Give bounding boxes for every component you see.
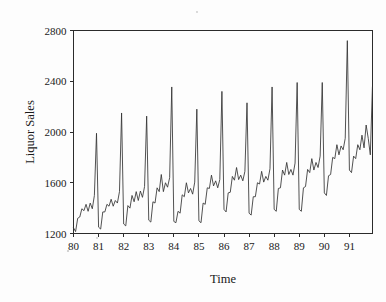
y-tick-label: 2400 bbox=[45, 75, 68, 87]
x-tick-label: 82 bbox=[118, 240, 129, 252]
x-tick-label: 80 bbox=[68, 240, 80, 252]
x-axis-ticks: 808182838485868788899091 bbox=[68, 234, 355, 252]
x-tick-label: 88 bbox=[269, 240, 281, 252]
scan-speck bbox=[196, 11, 198, 13]
x-tick-label: 85 bbox=[193, 240, 205, 252]
x-tick-label: 89 bbox=[294, 240, 306, 252]
liquor-sales-line-chart: 12001600200024002800 8081828384858687888… bbox=[0, 0, 386, 302]
x-tick-label: 83 bbox=[143, 240, 155, 252]
x-axis-title: Time bbox=[210, 272, 236, 286]
y-tick-label: 2000 bbox=[45, 126, 68, 138]
x-tick-label: 87 bbox=[244, 240, 256, 252]
x-tick-label: 84 bbox=[168, 240, 180, 252]
y-axis-title: Liquor Sales bbox=[23, 100, 37, 164]
x-tick-label: 81 bbox=[93, 240, 104, 252]
x-tick-label: 86 bbox=[219, 240, 231, 252]
x-tick-label: 91 bbox=[344, 240, 355, 252]
liquor-sales-series-line bbox=[74, 41, 373, 232]
y-tick-label: 2800 bbox=[45, 25, 68, 37]
x-tick-label: 90 bbox=[319, 240, 331, 252]
chart-page: 12001600200024002800 8081828384858687888… bbox=[0, 0, 386, 302]
y-tick-label: 1600 bbox=[45, 177, 68, 189]
y-axis-ticks: 12001600200024002800 bbox=[45, 25, 74, 240]
y-tick-label: 1200 bbox=[45, 228, 68, 240]
